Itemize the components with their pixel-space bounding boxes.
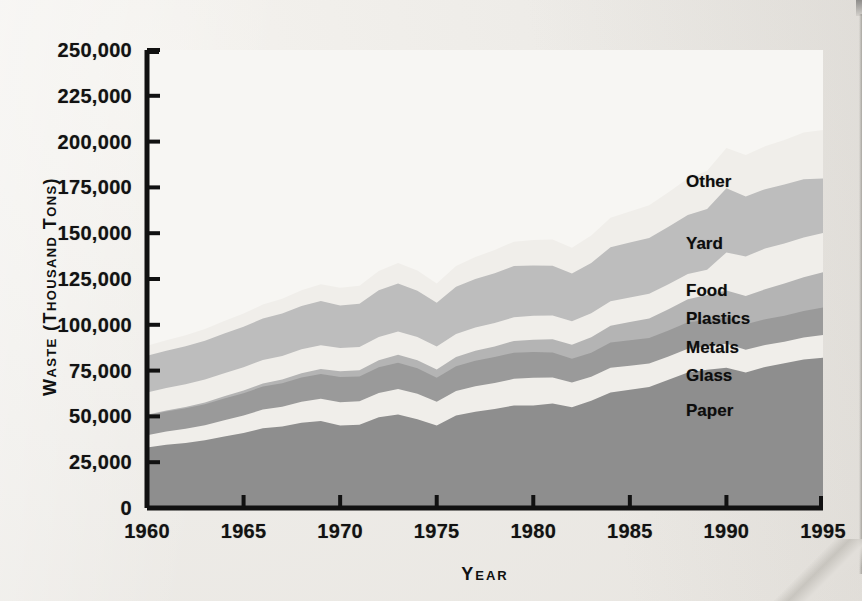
y-tick-label: 150,000 — [0, 222, 132, 245]
y-tick-label: 125,000 — [0, 268, 132, 291]
series-label-plastics: Plastics — [686, 309, 750, 329]
series-label-other: Other — [686, 172, 731, 192]
x-tick-label: 1970 — [317, 520, 363, 543]
series-label-glass: Glass — [686, 366, 732, 386]
y-tick-label: 175,000 — [0, 176, 132, 199]
stacked-area-chart: 025,00050,00075,000100,000125,000150,000… — [0, 0, 862, 601]
x-tick-label: 1975 — [414, 520, 460, 543]
x-tick-label: 1980 — [510, 520, 556, 543]
y-tick-label: 100,000 — [0, 313, 132, 336]
y-tick-label: 25,000 — [0, 451, 132, 474]
x-axis-title: Year — [145, 564, 825, 585]
series-label-yard: Yard — [686, 234, 723, 254]
y-tick-label: 75,000 — [0, 359, 132, 382]
series-label-metals: Metals — [686, 338, 739, 358]
y-axis-title: Waste (Thousand Tons) — [40, 77, 61, 497]
series-label-paper: Paper — [686, 401, 733, 421]
y-tick-label: 250,000 — [0, 39, 132, 62]
x-tick-label: 1995 — [800, 520, 846, 543]
x-tick-label: 1985 — [607, 520, 653, 543]
x-tick-label: 1965 — [221, 520, 267, 543]
y-tick-label: 200,000 — [0, 130, 132, 153]
series-label-food: Food — [686, 281, 728, 301]
y-tick-label: 225,000 — [0, 84, 132, 107]
y-tick-label: 50,000 — [0, 405, 132, 428]
x-tick-label: 1990 — [704, 520, 750, 543]
scanned-page: 025,00050,00075,000100,000125,000150,000… — [0, 0, 862, 601]
y-tick-label: 0 — [0, 497, 132, 520]
x-tick-label: 1960 — [124, 520, 170, 543]
